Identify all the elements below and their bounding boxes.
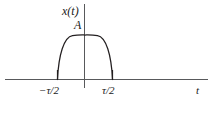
- x-axis-label: t: [196, 85, 199, 96]
- x-tick-label-positive-tau-half: τ/2: [102, 85, 115, 96]
- x-tick-label-negative-tau-half: −τ/2: [39, 85, 59, 96]
- amplitude-label: A: [74, 19, 81, 31]
- y-axis-label: x(t): [62, 5, 79, 17]
- plot-canvas: [0, 0, 215, 114]
- signal-plot-figure: x(t) A −τ/2 τ/2 t: [0, 0, 215, 114]
